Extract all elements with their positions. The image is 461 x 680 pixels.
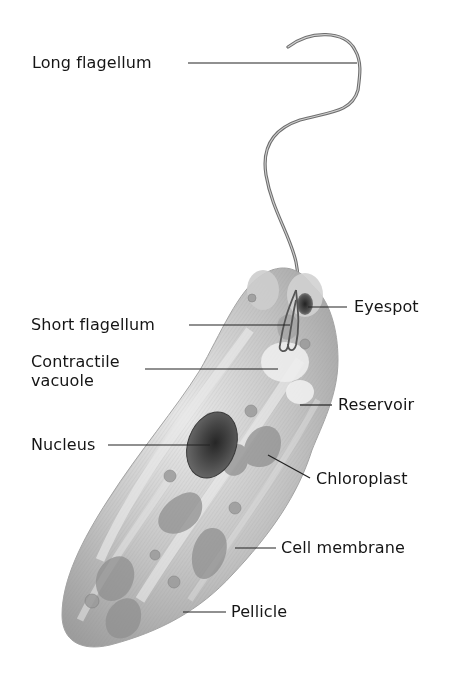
- label-chloroplast: Chloroplast: [316, 470, 408, 488]
- label-eyespot: Eyespot: [354, 298, 419, 316]
- label-contractile-vacuole-line2: vacuole: [31, 372, 94, 390]
- label-contractile-vacuole-line1: Contractile: [31, 353, 120, 371]
- eyespot: [297, 293, 313, 315]
- label-short-flagellum: Short flagellum: [31, 316, 155, 334]
- label-nucleus: Nucleus: [31, 436, 95, 454]
- label-pellicle: Pellicle: [231, 603, 287, 621]
- long-flagellum: [265, 35, 360, 295]
- label-cell-membrane: Cell membrane: [281, 539, 405, 557]
- label-reservoir: Reservoir: [338, 396, 414, 414]
- euglena-diagram: Long flagellum Eyespot Short flagellum C…: [0, 0, 461, 680]
- euglena-illustration: [0, 0, 461, 680]
- label-long-flagellum: Long flagellum: [32, 54, 152, 72]
